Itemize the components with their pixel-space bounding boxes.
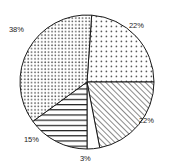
slice-label-3-bottom: 3%: [80, 155, 91, 163]
slice-label-22-right-bottom: 22%: [139, 117, 154, 125]
slice-label-38-top-left: 38%: [9, 26, 24, 34]
pie-chart: 22% 22% 3% 15% 38%: [0, 0, 173, 167]
slice-label-15-bottom-left: 15%: [24, 136, 39, 144]
slice-label-22-top-right: 22%: [129, 22, 144, 30]
pie-slices: [20, 15, 154, 149]
